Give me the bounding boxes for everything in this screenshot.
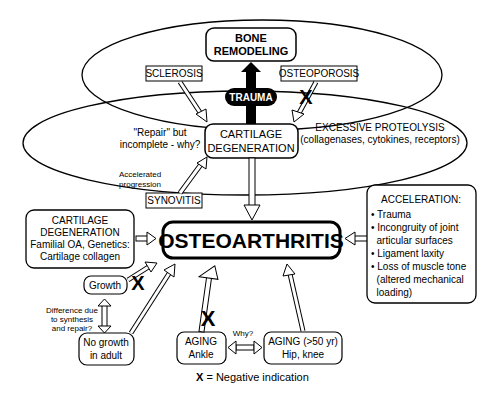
synovitis-box: SYNOVITIS — [146, 193, 202, 208]
svg-text:CARTILAGE: CARTILAGE — [220, 128, 282, 140]
aging-hip-box: AGING (>50 yr) Hip, knee — [264, 332, 342, 364]
svg-text:OSTEOPOROSIS: OSTEOPOROSIS — [279, 68, 360, 79]
osteoarthritis-box: OSTEOARTHRITIS — [158, 222, 344, 258]
cartilage-degeneration-box: CARTILAGE DEGENERATION — [205, 124, 298, 158]
svg-text:TRAUMA: TRAUMA — [229, 92, 272, 103]
svg-text:AGING: AGING — [185, 336, 217, 347]
svg-text:and repair?: and repair? — [52, 324, 93, 333]
aging-ankle-box: AGING Ankle — [177, 332, 226, 364]
svg-text:ACCELERATION:: ACCELERATION: — [381, 194, 461, 205]
svg-text:in adult: in adult — [90, 350, 122, 361]
svg-text:DEGENERATION: DEGENERATION — [40, 227, 119, 238]
legend: X = Negative indication — [196, 371, 309, 383]
svg-text:Familial OA, Genetics:: Familial OA, Genetics: — [30, 239, 129, 250]
svg-text:loading): loading) — [371, 287, 412, 298]
svg-text:SCLEROSIS: SCLEROSIS — [145, 68, 203, 79]
svg-text:SYNOVITIS: SYNOVITIS — [147, 195, 201, 206]
svg-text:incomplete - why?: incomplete - why? — [120, 139, 201, 150]
svg-text:to synthesis: to synthesis — [51, 315, 93, 324]
negative-mark-osteoporosis: X — [299, 86, 313, 108]
svg-text:articular surfaces: articular surfaces — [371, 235, 453, 246]
svg-text:• Incongruity of joint: • Incongruity of joint — [371, 222, 459, 233]
svg-text:(collagenases, cytokines, rece: (collagenases, cytokines, receptors) — [300, 134, 460, 145]
acceleration-box: ACCELERATION: • Trauma • Incongruity of … — [367, 185, 476, 303]
growth-box: Growth — [84, 276, 127, 294]
svg-text:X = Negative indication: X = Negative indication — [196, 371, 309, 383]
svg-text:CARTILAGE: CARTILAGE — [52, 215, 109, 226]
svg-text:• Trauma: • Trauma — [371, 209, 412, 220]
svg-text:Hip, knee: Hip, knee — [282, 349, 325, 360]
svg-text:BONE: BONE — [235, 32, 267, 44]
negative-mark-growth: X — [131, 272, 145, 294]
svg-text:• Ligament laxity: • Ligament laxity — [371, 248, 444, 259]
difference-note: Difference due — [46, 306, 98, 315]
svg-text:Ankle: Ankle — [188, 349, 213, 360]
svg-text:Growth: Growth — [89, 280, 121, 291]
svg-text:REMODELING: REMODELING — [214, 45, 289, 57]
excessive-proteolysis: EXCESSIVE PROTEOLYSIS — [315, 122, 445, 133]
bone-remodeling-box: BONE REMODELING — [206, 28, 296, 61]
svg-text:OSTEOARTHRITIS: OSTEOARTHRITIS — [158, 229, 344, 252]
negative-mark-ankle: X — [201, 306, 216, 331]
accelerated-note: Accelerated — [119, 170, 161, 179]
no-growth-box: No growth in adult — [79, 333, 134, 365]
svg-text:No growth: No growth — [83, 337, 129, 348]
svg-text:(altered mechanical: (altered mechanical — [371, 274, 464, 285]
genetic-cartilage-box: CARTILAGE DEGENERATION Familial OA, Gene… — [26, 210, 134, 268]
svg-text:• Loss of muscle tone: • Loss of muscle tone — [371, 261, 467, 272]
why-label: Why? — [233, 329, 254, 338]
repair-note: "Repair" but — [133, 127, 186, 138]
svg-text:AGING (>50 yr): AGING (>50 yr) — [268, 336, 338, 347]
osteoarthritis-diagram: BONE REMODELING TRAUMA SCLEROSIS OSTEOPO… — [0, 0, 500, 394]
svg-text:progression: progression — [119, 180, 161, 189]
svg-text:Cartilage collagen: Cartilage collagen — [40, 251, 120, 262]
osteoporosis-box: OSTEOPOROSIS — [279, 66, 360, 81]
svg-text:DEGENERATION: DEGENERATION — [207, 142, 294, 154]
sclerosis-box: SCLEROSIS — [145, 66, 203, 81]
